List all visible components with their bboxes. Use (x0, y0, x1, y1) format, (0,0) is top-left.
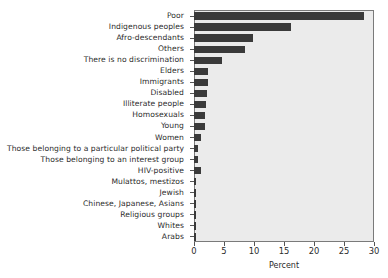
table-row (194, 187, 374, 198)
table-row (194, 10, 374, 21)
table-row (194, 132, 374, 143)
table-row (194, 120, 374, 131)
bar (194, 79, 208, 86)
bar (194, 90, 207, 97)
x-axis-title: Percent (194, 261, 374, 270)
bar (194, 145, 198, 152)
table-row (194, 32, 374, 43)
category-axis-labels: PoorIndigenous peoplesAfro-descendantsOt… (0, 10, 189, 242)
bar (194, 34, 253, 41)
table-row (194, 165, 374, 176)
bar (194, 156, 198, 163)
category-label: Women (155, 132, 184, 143)
bar (194, 101, 206, 108)
x-axis-tick-labels: 051015202530 (194, 246, 374, 258)
bar (194, 57, 222, 64)
table-row (194, 87, 374, 98)
table-row (194, 220, 374, 231)
bar (194, 134, 201, 141)
category-label: Afro-descendants (116, 32, 184, 43)
bar (194, 46, 245, 53)
bar (194, 68, 208, 75)
x-axis-tick-label: 5 (221, 246, 226, 256)
category-label: HIV-positive (138, 165, 184, 176)
table-row (194, 54, 374, 65)
table-row (194, 154, 374, 165)
table-row (194, 109, 374, 120)
table-row (194, 231, 374, 242)
table-row (194, 198, 374, 209)
table-row (194, 21, 374, 32)
category-label: Immigrants (140, 76, 184, 87)
bar-series (194, 10, 374, 242)
bar (194, 12, 364, 19)
x-axis-tick-label: 30 (369, 246, 380, 256)
category-label: Those belonging to a particular politica… (7, 143, 184, 154)
bar (194, 123, 205, 130)
table-row (194, 143, 374, 154)
category-label: Homosexuals (132, 109, 184, 120)
category-label: Religious groups (120, 209, 184, 220)
category-label: Jewish (160, 187, 184, 198)
bar (194, 112, 205, 119)
x-axis-tick-label: 10 (249, 246, 260, 256)
category-label: Mulattos, mestizos (111, 176, 184, 187)
category-label: Those belonging to an interest group (41, 154, 184, 165)
bar (194, 211, 196, 218)
table-row (194, 98, 374, 109)
category-label: Young (161, 120, 184, 131)
bar (194, 222, 196, 229)
category-label: Arabs (162, 231, 184, 242)
category-label: Chinese, Japanese, Asians (83, 198, 184, 209)
bar (194, 200, 196, 207)
table-row (194, 43, 374, 54)
category-label: Illiterate people (123, 98, 184, 109)
table-row (194, 76, 374, 87)
table-row (194, 176, 374, 187)
x-axis-tick-label: 25 (339, 246, 350, 256)
bar-chart: PoorIndigenous peoplesAfro-descendantsOt… (0, 0, 388, 278)
x-axis-tick-label: 0 (191, 246, 196, 256)
bar (194, 189, 196, 196)
category-label: There is no discrimination (84, 54, 184, 65)
table-row (194, 65, 374, 76)
x-axis-tick-label: 15 (279, 246, 290, 256)
bar (194, 233, 196, 240)
category-label: Indigenous peoples (109, 21, 184, 32)
bar (194, 23, 291, 30)
table-row (194, 209, 374, 220)
bar (194, 178, 196, 185)
bar (194, 167, 201, 174)
category-label: Whites (158, 220, 185, 231)
category-label: Others (158, 43, 184, 54)
category-label: Disabled (150, 87, 184, 98)
category-label: Elders (160, 65, 184, 76)
category-label: Poor (167, 10, 184, 21)
x-axis-tick-label: 20 (309, 246, 320, 256)
